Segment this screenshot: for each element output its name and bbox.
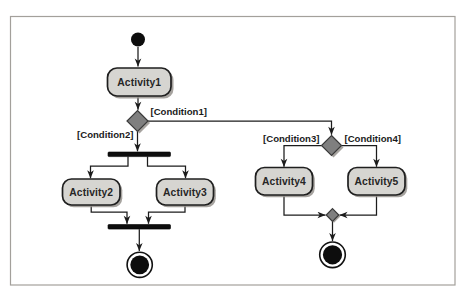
final-right-core bbox=[323, 245, 342, 264]
guard-condition3-label: [Condition3] bbox=[263, 133, 319, 144]
guard-condition1-label: [Condition1] bbox=[151, 106, 207, 117]
initial-node-icon bbox=[131, 33, 145, 47]
activity1-node: Activity1 bbox=[108, 68, 174, 99]
activity2-node: Activity2 bbox=[63, 179, 123, 207]
guard-condition4-label: [Condition4] bbox=[345, 133, 401, 144]
activity4-node: Activity4 bbox=[256, 168, 315, 198]
activity-diagram: Activity1 [Condition1] [Condition2] Acti… bbox=[0, 0, 470, 293]
diagram-frame bbox=[11, 17, 456, 286]
activity5-label: Activity5 bbox=[355, 176, 399, 187]
join-bar-icon bbox=[108, 225, 171, 230]
final-node-right-icon bbox=[320, 242, 346, 268]
final-left-core bbox=[130, 255, 149, 274]
guard-condition2-label: [Condition2] bbox=[77, 129, 133, 140]
figure-canvas: Activity1 [Condition1] [Condition2] Acti… bbox=[0, 0, 470, 293]
activity1-label: Activity1 bbox=[117, 77, 161, 88]
activity2-label: Activity2 bbox=[69, 187, 113, 198]
activity3-node: Activity3 bbox=[157, 179, 216, 207]
final-node-left-icon bbox=[127, 252, 152, 277]
fork-bar-icon bbox=[108, 152, 171, 157]
activity4-label: Activity4 bbox=[262, 176, 306, 187]
activity3-label: Activity3 bbox=[163, 187, 207, 198]
activity5-node: Activity5 bbox=[348, 168, 407, 198]
